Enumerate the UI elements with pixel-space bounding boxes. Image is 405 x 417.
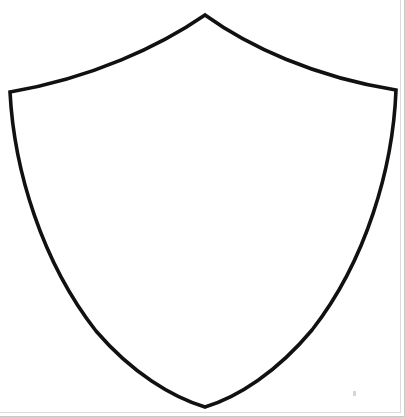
page-edge-bottom-inner [0, 412, 401, 413]
shield-drawing [0, 0, 405, 417]
scan-speck [353, 391, 356, 396]
page-edge-right-inner [400, 0, 401, 412]
drawing-canvas: Shield Outline Blank heraldic pointed sh… [0, 0, 405, 417]
